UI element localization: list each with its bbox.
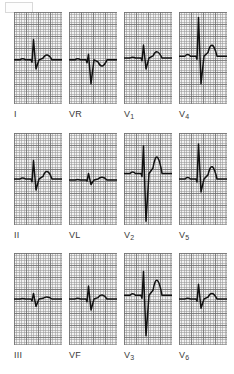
ecg-panel-i: I — [14, 12, 62, 104]
lead-label-vl: VL — [69, 229, 80, 241]
lead-label-v1: V1 — [124, 108, 134, 121]
ecg-panel-v1: V1 — [124, 12, 172, 104]
lead-label-v4: V4 — [179, 108, 189, 121]
ecg-waveform-v4 — [179, 12, 227, 104]
ecg-waveform-v5 — [179, 133, 227, 225]
ecg-row: IIVLV2V5 — [0, 133, 234, 253]
ecg-waveform-i — [14, 12, 62, 104]
lead-label-subscript: 4 — [185, 113, 189, 120]
ecg-waveform-ii — [14, 133, 62, 225]
ecg-waveform-v2 — [124, 133, 172, 225]
lead-label-subscript: 2 — [130, 234, 134, 241]
lead-label-v6: V6 — [179, 349, 189, 362]
lead-label-subscript: 6 — [185, 354, 189, 361]
ecg-waveform-v6 — [179, 253, 227, 345]
lead-label-text: I — [14, 109, 17, 119]
ecg-panel-v6: V6 — [179, 253, 227, 345]
ecg-panel-vr: VR — [69, 12, 117, 104]
ecg-waveform-v3 — [124, 253, 172, 345]
lead-label-subscript: 3 — [130, 354, 134, 361]
ecg-waveform-vr — [69, 12, 117, 104]
ecg-panel-v3: V3 — [124, 253, 172, 345]
lead-label-iii: III — [14, 349, 22, 361]
ecg-waveform-vl — [69, 133, 117, 225]
ecg-waveform-vf — [69, 253, 117, 345]
ecg-row: IIIVFV3V6 — [0, 253, 234, 373]
lead-label-v5: V5 — [179, 229, 189, 242]
lead-label-vr: VR — [69, 108, 82, 120]
lead-label-ii: II — [14, 229, 19, 241]
ecg-panel-v2: V2 — [124, 133, 172, 225]
ecg-waveform-iii — [14, 253, 62, 345]
lead-label-text: VL — [69, 230, 80, 240]
lead-label-text: II — [14, 230, 19, 240]
ecg-panel-v5: V5 — [179, 133, 227, 225]
lead-label-v3: V3 — [124, 349, 134, 362]
ecg-waveform-v1 — [124, 12, 172, 104]
ecg-panel-vf: VF — [69, 253, 117, 345]
ecg-panel-ii: II — [14, 133, 62, 225]
lead-label-subscript: 5 — [185, 234, 189, 241]
lead-label-text: III — [14, 350, 22, 360]
ecg-row: IVRV1V4 — [0, 12, 234, 132]
ecg-panel-vl: VL — [69, 133, 117, 225]
lead-label-subscript: 1 — [130, 113, 134, 120]
ecg-panel-v4: V4 — [179, 12, 227, 104]
lead-label-text: VF — [69, 350, 81, 360]
lead-label-v2: V2 — [124, 229, 134, 242]
ecg-sheet: IVRV1V4 IIVLV2V5 IIIVFV3V6 — [0, 0, 234, 374]
lead-label-vf: VF — [69, 349, 81, 361]
lead-label-i: I — [14, 108, 17, 120]
lead-label-text: VR — [69, 109, 82, 119]
ecg-panel-iii: III — [14, 253, 62, 345]
